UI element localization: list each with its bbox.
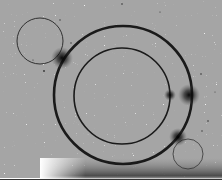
- blob-bottom-right: [169, 128, 187, 146]
- blob-top-left: [51, 47, 73, 69]
- blob-right-outer: [178, 84, 200, 106]
- floor-shadow: [40, 158, 222, 179]
- blob-right-inner: [164, 89, 176, 101]
- ring-diagram: [0, 0, 222, 186]
